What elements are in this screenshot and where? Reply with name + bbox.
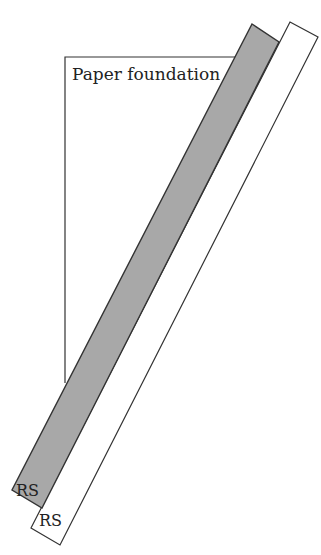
paper-foundation-label: Paper foundation: [72, 64, 220, 84]
gray-strip-label: RS: [16, 481, 39, 500]
gray-rs-strip: [12, 24, 279, 508]
diagram-canvas: Paper foundation RS RS: [0, 0, 321, 555]
white-strip-label: RS: [39, 511, 62, 530]
white-rs-strip: [31, 22, 318, 545]
